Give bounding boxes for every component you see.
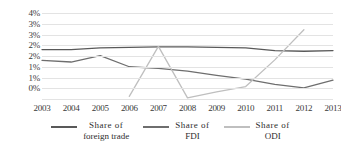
y-tick-label: 4% xyxy=(2,9,40,18)
gridline xyxy=(42,35,333,36)
line-chart: 4%3%3%2%2%1%1%0% 20032004200520062007200… xyxy=(0,0,341,151)
y-tick-label: 0% xyxy=(2,84,40,93)
y-tick-label: 2% xyxy=(2,41,40,50)
plot-area xyxy=(42,13,333,99)
gridline xyxy=(42,13,333,14)
legend-label-line1: Share of xyxy=(256,120,290,131)
x-tick-label: 2008 xyxy=(179,103,196,114)
legend-label: Share offoreign trade xyxy=(83,120,129,142)
legend-label: Share ofODI xyxy=(256,120,290,142)
y-tick-label: 3% xyxy=(2,20,40,29)
gridline xyxy=(42,67,333,68)
y-axis-labels: 4%3%3%2%2%1%1%0% xyxy=(0,0,40,112)
gridline xyxy=(42,78,333,79)
x-tick-label: 2012 xyxy=(295,103,312,114)
gridline xyxy=(42,88,333,89)
y-tick-label: 1% xyxy=(2,74,40,83)
y-tick-label: 3% xyxy=(2,31,40,40)
x-tick-label: 2010 xyxy=(237,103,254,114)
legend-swatch xyxy=(51,126,77,128)
legend-label-line2: FDI xyxy=(175,131,209,142)
x-tick-label: 2003 xyxy=(34,103,51,114)
series-line xyxy=(42,56,333,88)
x-tick-label: 2013 xyxy=(325,103,341,114)
legend-swatch xyxy=(224,126,250,128)
legend-item[interactable]: Share ofODI xyxy=(224,120,290,142)
legend-swatch xyxy=(143,126,169,128)
x-tick-label: 2006 xyxy=(121,103,138,114)
legend-item[interactable]: Share ofFDI xyxy=(143,120,209,142)
x-tick-label: 2004 xyxy=(63,103,80,114)
gridline xyxy=(42,45,333,46)
legend-label-line2: ODI xyxy=(256,131,290,142)
gridline xyxy=(42,24,333,25)
x-axis-labels: 2003200420052006200720082009201020112012… xyxy=(42,103,333,117)
x-tick-label: 2005 xyxy=(92,103,109,114)
legend-label-line1: Share of xyxy=(83,120,129,131)
legend-label-line2: foreign trade xyxy=(83,131,129,142)
x-tick-label: 2009 xyxy=(208,103,225,114)
legend-item[interactable]: Share offoreign trade xyxy=(51,120,129,142)
gridline xyxy=(42,56,333,57)
y-tick-label: 1% xyxy=(2,63,40,72)
x-tick-label: 2007 xyxy=(150,103,167,114)
chart-legend: Share offoreign tradeShare ofFDIShare of… xyxy=(0,120,341,151)
series-line xyxy=(42,47,333,51)
x-tick-label: 2011 xyxy=(267,103,283,114)
x-axis-line xyxy=(42,99,333,100)
legend-label: Share ofFDI xyxy=(175,120,209,142)
y-tick-label: 2% xyxy=(2,52,40,61)
legend-label-line1: Share of xyxy=(175,120,209,131)
